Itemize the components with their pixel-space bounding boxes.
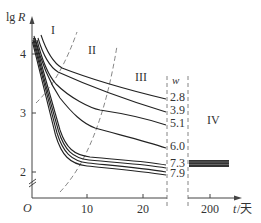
curve-w-7.3 xyxy=(34,36,166,165)
x-tick-20: 20 xyxy=(137,202,149,216)
y-axis-label-lg: lg xyxy=(6,10,15,24)
legend-w-7.9: 7.9 xyxy=(170,166,185,180)
curve-w-7.3b xyxy=(34,38,167,168)
curve-w-2.8 xyxy=(41,35,166,99)
legend-title-w: w xyxy=(172,74,180,86)
x-axis-label-unit: /天 xyxy=(237,202,252,216)
y-tick-3: 3 xyxy=(20,106,26,120)
y-tick-4: 4 xyxy=(20,47,26,61)
legend-w-3.9: 3.9 xyxy=(170,103,185,117)
legend-w-2.8: 2.8 xyxy=(170,90,185,104)
y-tick-2: 2 xyxy=(20,165,26,179)
x-tick-10: 10 xyxy=(81,202,93,216)
legend-w-5.1: 5.1 xyxy=(170,116,185,130)
x-axis xyxy=(32,194,242,201)
region-label-i: I xyxy=(51,23,55,37)
region-label-iii: III xyxy=(135,70,147,84)
region-iv-band xyxy=(189,160,229,167)
y-axis-label-r: R xyxy=(17,10,26,24)
legend-w-6.0: 6.0 xyxy=(170,139,185,153)
origin-label: O xyxy=(23,201,32,215)
region-label-ii: II xyxy=(88,43,96,57)
lgR-vs-time-chart: lg R 4 3 2 O 10 20 200 t /天 I II III IV … xyxy=(0,0,261,223)
region-label-iv: IV xyxy=(207,113,220,127)
curves xyxy=(33,35,167,175)
x-tick-200: 200 xyxy=(201,202,219,216)
